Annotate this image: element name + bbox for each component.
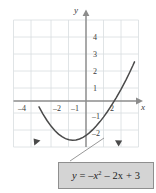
equation-text: y = –x2 – 2x + 3 — [72, 170, 140, 181]
equation-equals: = — [79, 170, 85, 181]
x-axis-label: x — [140, 102, 145, 112]
curve-arrowhead-left — [34, 138, 41, 145]
y-axis-arrowhead — [83, 10, 90, 17]
y-tick-label-1: 1 — [93, 84, 97, 93]
equation-term1-exponent: 2 — [98, 169, 101, 176]
x-tick-label-neg4: –4 — [17, 104, 26, 113]
y-tick-label-4: 4 — [93, 33, 97, 42]
equation-callout-box: y = –x2 – 2x + 3 — [58, 162, 154, 189]
y-tick-label-neg1: –1 — [91, 112, 100, 121]
callout-leader-line — [70, 138, 104, 161]
grid-lines — [14, 20, 139, 147]
x-tick-label-neg1: –1 — [70, 104, 79, 113]
equation-lhs: y — [72, 170, 77, 181]
y-tick-label-3: 3 — [93, 50, 97, 59]
equation-term3: + 3 — [126, 170, 140, 181]
axis-lines — [14, 16, 137, 147]
y-axis-label: y — [73, 5, 78, 15]
y-tick-label-2: 2 — [93, 67, 97, 76]
equation-term2: – 2x — [104, 170, 123, 181]
x-tick-label-neg2: –2 — [52, 104, 61, 113]
